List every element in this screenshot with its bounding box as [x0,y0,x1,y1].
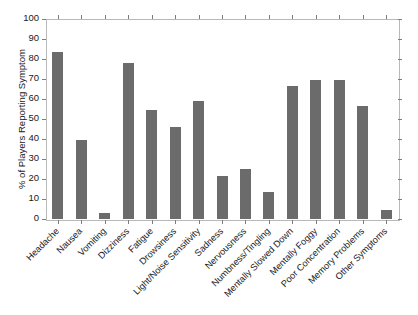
x-tick-mark [81,220,82,224]
x-tick-mark [339,220,340,224]
bar [357,106,368,219]
y-tick-mark [42,179,46,180]
y-tick-value: 30 [28,152,39,164]
bar [123,63,134,219]
x-tick-mark [386,220,387,224]
y-tick-value: 80 [28,52,39,64]
x-tick-mark-top [81,15,82,19]
x-tick-mark [316,220,317,224]
x-tick-mark [58,220,59,224]
bar [146,110,157,219]
y-tick-value: 50 [28,112,39,124]
y-tick-value: 90 [28,32,39,44]
x-tick-mark-top [105,15,106,19]
x-tick-mark-top [363,15,364,19]
y-tick-mark [42,159,46,160]
y-tick-mark [42,119,46,120]
x-tick-mark [363,220,364,224]
y-tick-mark-right [398,19,402,20]
y-tick-mark-right [398,79,402,80]
x-tick-mark-top [386,15,387,19]
bar [170,127,181,219]
y-tick-mark [42,59,46,60]
bar [381,210,392,219]
x-tick-mark-top [292,15,293,19]
x-tick-mark-top [269,15,270,19]
x-tick-mark-top [58,15,59,19]
y-tick-mark-right [398,219,402,220]
y-tick-mark-right [398,159,402,160]
y-tick-mark [42,99,46,100]
y-tick-mark-right [398,59,402,60]
x-tick-mark-top [152,15,153,19]
bar [217,176,228,219]
x-tick-mark-top [222,15,223,19]
y-tick-mark-right [398,119,402,120]
bar [240,169,251,219]
x-tick-mark [292,220,293,224]
y-tick-value: 70 [28,72,39,84]
y-tick-value: 60 [28,92,39,104]
y-tick-value: 40 [28,132,39,144]
bar [52,52,63,219]
y-tick-value: 10 [28,192,39,204]
x-tick-mark-top [199,15,200,19]
x-tick-mark-top [175,15,176,19]
y-tick-mark-right [398,99,402,100]
bars-layer [46,19,398,219]
x-tick-mark-top [128,15,129,19]
bar [310,80,321,219]
y-tick-mark [42,139,46,140]
x-tick-label: Headache [24,226,61,263]
y-tick-mark-right [398,39,402,40]
y-tick-mark [42,39,46,40]
bar [193,101,204,219]
bar [99,213,110,219]
bar [76,140,87,219]
x-tick-mark [199,220,200,224]
x-tick-mark-top [245,15,246,19]
x-tick-mark [245,220,246,224]
y-tick-value: 20 [28,172,39,184]
y-tick-mark [42,219,46,220]
y-tick-mark [42,19,46,20]
x-tick-mark [152,220,153,224]
y-tick-mark-right [398,199,402,200]
y-tick-value: 100 [23,12,39,24]
bar [334,80,345,219]
bar [287,86,298,219]
y-tick-mark [42,79,46,80]
x-tick-mark [222,220,223,224]
x-tick-mark-top [316,15,317,19]
y-tick-value: 0 [34,212,39,224]
y-tick-mark [42,199,46,200]
bar [263,192,274,219]
x-tick-mark [128,220,129,224]
y-tick-mark-right [398,179,402,180]
y-tick-mark-right [398,139,402,140]
x-tick-mark [105,220,106,224]
x-tick-mark-top [339,15,340,19]
x-tick-mark [269,220,270,224]
bar-chart-figure: % of Players Reporting Symptom 010203040… [0,0,418,315]
x-tick-mark [175,220,176,224]
